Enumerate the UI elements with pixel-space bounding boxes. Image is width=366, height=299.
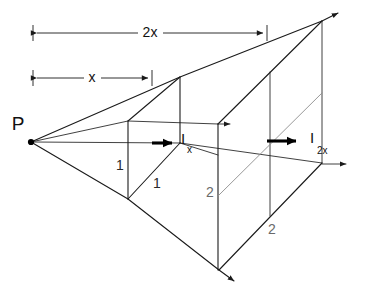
- inverse-square-law-diagram: P 2x x I x I 2x 1 1 2 2: [0, 0, 366, 299]
- source-point-label: P: [12, 113, 25, 134]
- side-label-far-vertical: 2: [206, 184, 214, 200]
- intensity-label-x-subscript: x: [187, 144, 192, 155]
- background: [0, 0, 366, 299]
- dimension-label-2x: 2x: [143, 24, 158, 40]
- intensity-label-x-base: I: [181, 130, 185, 147]
- dimension-label-x: x: [89, 69, 96, 85]
- diagram-canvas: P 2x x I x I 2x 1 1 2 2: [0, 0, 366, 299]
- side-label-near-depth: 1: [153, 175, 161, 191]
- intensity-label-2x-base: I: [310, 129, 314, 146]
- source-point-dot: [28, 139, 34, 145]
- side-label-near-vertical: 1: [116, 157, 124, 173]
- intensity-label-2x-subscript: 2x: [317, 145, 328, 156]
- side-label-far-depth: 2: [268, 221, 276, 237]
